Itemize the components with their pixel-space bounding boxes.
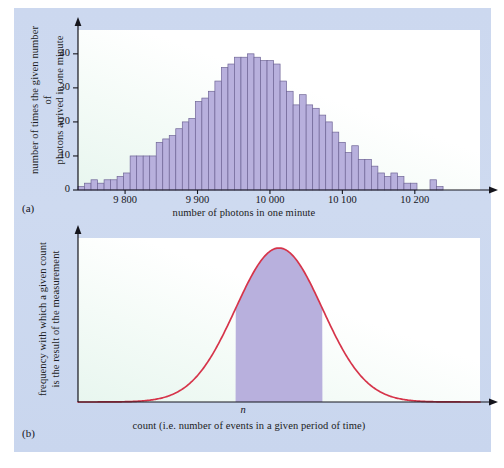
panel-a-y-tick-label: 20	[44, 115, 70, 126]
panel-a-x-tick-label: 9 800	[95, 194, 155, 205]
panel-a-x-tick-label: 10 100	[312, 194, 372, 205]
panel-b-axes-svg	[58, 230, 498, 416]
panel-b-y-axis-title-line1: frequency with which a given count	[37, 239, 50, 399]
panel-a-x-axis-arrowhead	[489, 186, 498, 193]
panel-a-x-tick-label: 10 200	[385, 194, 445, 205]
panel-a-tag: (a)	[22, 202, 34, 214]
figure-root: (a) number of times the given number of …	[0, 0, 504, 468]
panel-b-tag: (b)	[22, 427, 35, 439]
panel-a-x-tick-label: 10 000	[240, 194, 300, 205]
panel-b: (b) frequency with which a given count i…	[14, 230, 491, 452]
panel-b-x-axis-title: count (i.e. number of events in a given …	[69, 420, 429, 433]
panel-a-y-tick-label: 30	[44, 81, 70, 92]
panel-a-x-tick-label: 9 900	[168, 194, 228, 205]
panel-a-y-tick-label: 0	[44, 183, 70, 194]
panel-a-axes-svg	[58, 22, 498, 202]
panel-a-y-tick-label: 40	[44, 47, 70, 58]
panel-a-y-axis-arrowhead	[75, 17, 82, 26]
panel-a: (a) number of times the given number of …	[14, 8, 491, 230]
panel-b-x-axis-arrowhead	[489, 398, 498, 405]
panel-a-y-tick-label: 10	[44, 149, 70, 160]
figure-board: (a) number of times the given number of …	[14, 8, 491, 452]
panel-a-x-axis-title: number of photons in one minute	[74, 207, 414, 220]
